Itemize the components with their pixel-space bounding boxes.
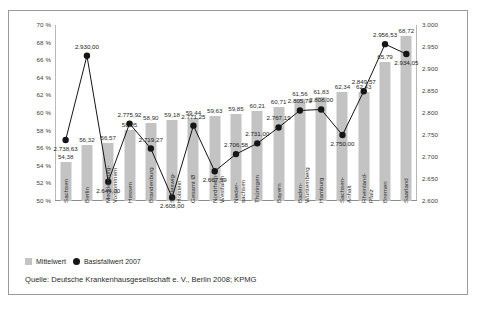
line-value-label: 2.750,00: [330, 140, 354, 147]
line-value-label: 2.719,27: [139, 136, 163, 143]
legend-label-basisfallwert: Basisfallwert 2007: [84, 258, 141, 265]
x-axis-label: Berlin: [83, 187, 90, 203]
left-tick-label: 56 %: [36, 144, 51, 151]
left-tick-label: 70 %: [36, 21, 51, 28]
bar-swatch-icon: [25, 258, 32, 265]
bar-value-label: 61,56: [292, 90, 307, 97]
legend-item-basisfallwert: Basisfallwert 2007: [73, 258, 141, 265]
line-value-label: 2.771,25: [181, 113, 205, 120]
left-tick-label: 52 %: [36, 179, 51, 186]
left-tick-label: 66 %: [36, 56, 51, 63]
left-tick-label: 62 %: [36, 91, 51, 98]
bar-value-label: 68,72: [399, 27, 414, 34]
bar-value-label: 58,90: [143, 114, 158, 121]
bar-value-label: 59,18: [164, 111, 179, 118]
left-tick-label: 58 %: [36, 127, 51, 134]
line-value-label: 2.775,92: [117, 111, 141, 118]
bar-value-label: 62,34: [335, 83, 350, 90]
x-axis-label: Mecklenburg- Vorpommern: [104, 166, 118, 204]
x-axis-label: Thüringen: [253, 175, 260, 203]
bar-slot: 56,32: [76, 25, 97, 201]
bar-slot: 60,71: [268, 25, 289, 201]
bar-value-label: 56,32: [79, 136, 94, 143]
bar-value-label: 60,71: [271, 98, 286, 105]
line-value-label: 2.706,58: [224, 141, 248, 148]
chart-screenshot: 70 %68 %66 %64 %62 %60 %58 %56 %54 %52 %…: [0, 0, 478, 312]
x-axis-label: Hessen: [126, 182, 133, 203]
line-value-label: 2.956,53: [373, 31, 397, 38]
x-axis-labels: SachsenBerlinMecklenburg- VorpommernHess…: [55, 203, 417, 265]
x-axis-label: Nordrhein- Westfalen: [211, 174, 225, 203]
x-axis-label: Bayern: [275, 183, 282, 203]
line-value-label: 2.731,00: [245, 130, 269, 137]
bar-slot: 61,83: [311, 25, 332, 201]
x-axis-label: Hamburg: [317, 178, 324, 203]
right-tick-label: 2.950: [422, 43, 438, 50]
line-value-label: 2.738,63: [54, 145, 78, 152]
line-value-label: 2.849,57: [352, 78, 376, 85]
right-tick-label: 2.650: [422, 175, 438, 182]
left-tick-label: 60 %: [36, 109, 51, 116]
x-axis-label: Gesamt Ø: [189, 175, 196, 203]
legend-item-mittelwert: Mittelwert: [25, 258, 66, 265]
dot-marker-icon: [73, 258, 80, 265]
left-tick-label: 64 %: [36, 74, 51, 81]
right-tick-label: 3.000: [422, 21, 438, 28]
x-axis-label: Nieder- sachsen: [232, 180, 246, 203]
line-value-label: 2.767,19: [267, 114, 291, 121]
bar-value-label: 58,05: [122, 121, 137, 128]
bar-value-label: 61,83: [313, 88, 328, 95]
right-tick-label: 2.900: [422, 65, 438, 72]
right-tick-label: 2.600: [422, 197, 438, 204]
right-tick-label: 2.750: [422, 131, 438, 138]
right-tick-label: 2.700: [422, 153, 438, 160]
bar-slot: 65,79: [374, 25, 395, 201]
x-axis-label: Schleswig- Holstein: [168, 173, 182, 203]
x-axis-label: Sachsen: [62, 179, 69, 203]
line-value-label: 2.934,05: [394, 59, 418, 66]
right-tick-label: 2.850: [422, 87, 438, 94]
x-axis-label: Sachsen- Anhalt: [338, 177, 352, 203]
x-axis-label: Bremen: [381, 181, 388, 203]
right-tick-label: 2.800: [422, 109, 438, 116]
left-tick-label: 50 %: [36, 197, 51, 204]
bar-value-label: 54,38: [58, 153, 73, 160]
bar-slot: 54,38: [55, 25, 76, 201]
line-value-label: 2.808,00: [309, 96, 333, 103]
x-axis-label: Baden- Württemberg: [296, 167, 310, 203]
chart-legend: Mittelwert Basisfallwert 2007: [25, 258, 141, 265]
bar-slot: 59,85: [225, 25, 246, 201]
x-axis-label: Saarland: [402, 178, 409, 203]
x-axis-label: Brandenburg: [147, 167, 154, 203]
bar-value-label: 59,85: [228, 105, 243, 112]
x-axis-label: Rheinland- Pfalz: [360, 173, 374, 203]
bar-slot: 62,34: [332, 25, 353, 201]
bar-value-label: 60,21: [250, 102, 265, 109]
bar-value-label: 65,79: [377, 53, 392, 60]
bar-slot: 68,72: [396, 25, 417, 201]
left-tick-label: 68 %: [36, 39, 51, 46]
line-value-label: 2.930,00: [75, 43, 99, 50]
bar-value-label: 59,63: [207, 107, 222, 114]
legend-label-mittelwert: Mittelwert: [36, 258, 66, 265]
bar-value-label: 56,57: [100, 134, 115, 141]
left-tick-label: 54 %: [36, 162, 51, 169]
chart-panel: 70 %68 %66 %64 %62 %60 %58 %56 %54 %52 %…: [8, 10, 468, 295]
source-note: Quelle: Deutsche Krankenhausgesellschaft…: [25, 275, 256, 284]
